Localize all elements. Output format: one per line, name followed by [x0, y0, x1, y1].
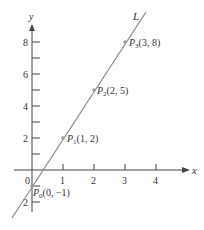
chart: x y 0 1 2 3 4 8 6 4 2 2 L — [0, 0, 204, 230]
x-axis-arrow-icon — [182, 167, 190, 173]
svg-text:P3(3, 8): P3(3, 8) — [128, 37, 160, 50]
point-p1: P1(1, 2) — [61, 133, 98, 146]
point-p2: P2(2, 5) — [92, 85, 128, 98]
tick-label: 1 — [60, 175, 65, 186]
svg-text:P1(1, 2): P1(1, 2) — [66, 133, 98, 146]
tick-label: 3 — [122, 175, 127, 186]
x-axis: x — [14, 164, 197, 176]
y-ticks — [32, 42, 40, 202]
x-tick-labels: 0 1 2 3 4 — [25, 175, 158, 186]
point-p0: P0(0, −1) — [30, 184, 70, 200]
svg-text:P2(2, 5): P2(2, 5) — [96, 85, 128, 98]
point-p3: P3(3, 8) — [123, 37, 160, 50]
tick-label: 4 — [23, 101, 28, 112]
x-axis-label: x — [191, 164, 197, 176]
tick-label: 6 — [23, 69, 28, 80]
line-label: L — [132, 10, 139, 22]
tick-label: 2 — [23, 197, 28, 208]
tick-label: 4 — [153, 175, 158, 186]
tick-label: 8 — [23, 37, 28, 48]
x-ticks — [63, 164, 156, 170]
y-axis-label: y — [28, 11, 34, 22]
y-axis-arrow-icon — [29, 24, 35, 31]
tick-label: 2 — [91, 175, 96, 186]
tick-label: 0 — [25, 175, 30, 186]
svg-text:P0(0, −1): P0(0, −1) — [32, 187, 70, 200]
tick-label: 2 — [23, 133, 28, 144]
